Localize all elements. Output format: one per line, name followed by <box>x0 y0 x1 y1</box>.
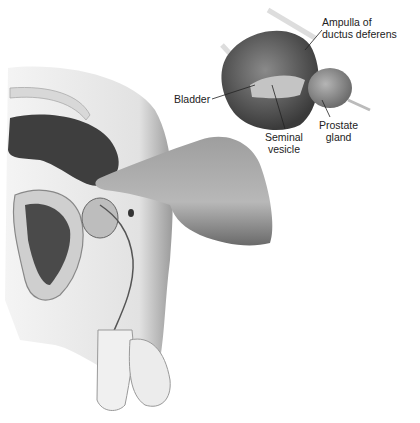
label-ampulla: Ampulla of ductus deferens <box>322 16 397 40</box>
label-bladder: Bladder <box>174 93 210 105</box>
label-seminal-line1: Seminal <box>265 131 303 143</box>
label-seminal-line2: vesicle <box>265 143 303 155</box>
label-seminal-vesicle: Seminal vesicle <box>265 131 303 155</box>
label-ampulla-line2: ductus deferens <box>322 28 397 40</box>
label-ampulla-line1: Ampulla of <box>322 16 397 28</box>
label-prostate-line1: Prostate <box>319 119 358 131</box>
label-prostate-line2: gland <box>319 131 358 143</box>
anatomy-illustration <box>0 0 420 423</box>
label-prostate-gland: Prostate gland <box>319 119 358 143</box>
body-section <box>5 67 173 411</box>
